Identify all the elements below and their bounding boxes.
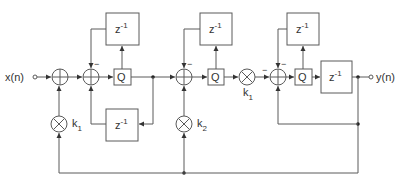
minus-sign: − xyxy=(281,59,286,69)
adder-2 xyxy=(83,69,99,85)
quantizer-1: Q xyxy=(114,69,131,85)
svg-text:Q: Q xyxy=(211,71,220,83)
adder-1 xyxy=(52,69,68,85)
quantizer-3: Q xyxy=(295,69,312,85)
output-label: y(n) xyxy=(376,71,395,83)
delay-output: z-1 xyxy=(321,61,352,93)
minus-sign: − xyxy=(94,59,99,69)
input-label: x(n) xyxy=(5,71,24,83)
multiplier-k1-left xyxy=(51,116,67,132)
svg-text:Q: Q xyxy=(298,71,307,83)
adder-4 xyxy=(270,69,286,85)
input-terminal xyxy=(33,75,37,79)
minus-sign: − xyxy=(262,65,267,75)
delay-top-1: z-1 xyxy=(106,13,139,45)
multiplier-k1-mid xyxy=(239,69,255,85)
delay-top-2: z-1 xyxy=(200,13,232,45)
k1-mid-label: k1 xyxy=(243,86,254,102)
svg-text:Q: Q xyxy=(117,71,126,83)
delay-bottom-1: z-1 xyxy=(106,109,138,141)
adder-3 xyxy=(176,69,192,85)
quantizer-2: Q xyxy=(208,69,224,85)
output-terminal xyxy=(369,75,373,79)
k1-left-label: k1 xyxy=(72,117,83,133)
multiplier-k2 xyxy=(176,116,192,132)
block-diagram: x(n) − Q z-1 z-1 k1 xyxy=(0,0,398,195)
minus-sign: − xyxy=(187,59,192,69)
k2-label: k2 xyxy=(197,117,208,133)
delay-top-3: z-1 xyxy=(287,13,319,45)
